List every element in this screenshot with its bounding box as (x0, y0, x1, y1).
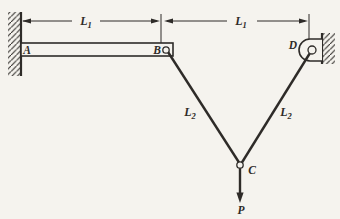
label-joint-c: C (248, 164, 256, 176)
member-bc (168, 52, 240, 164)
arrowhead-mid-right-icon (164, 19, 173, 24)
label-joint-a: A (22, 44, 31, 56)
label-joint-d: D (288, 39, 298, 51)
arrowhead-left-wall-icon (22, 19, 31, 24)
dimension-label-left: L1 (79, 14, 92, 30)
member-label-left: L2 (183, 105, 196, 121)
member-label-right: L2 (279, 105, 292, 121)
arrowhead-mid-left-icon (151, 19, 160, 24)
pin-c-icon (237, 162, 243, 168)
member-dc (241, 53, 310, 164)
force-label: P (237, 204, 245, 216)
force-arrowhead-icon (236, 193, 243, 204)
label-joint-b: B (152, 44, 161, 56)
arrowhead-right-wall-icon (299, 19, 308, 24)
pin-b-icon (163, 47, 169, 53)
beam-ab (21, 43, 173, 56)
statics-diagram: A B C D L1 L1 L2 L2 P (0, 0, 340, 219)
dimension-label-right: L1 (234, 14, 247, 30)
left-wall-hatch (8, 12, 21, 76)
right-wall-hatch (322, 33, 335, 64)
figure-canvas: A B C D L1 L1 L2 L2 P (0, 0, 340, 219)
pin-d-icon (308, 46, 316, 54)
